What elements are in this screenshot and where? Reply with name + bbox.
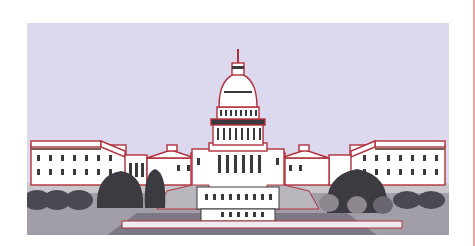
plaza (122, 221, 402, 228)
capitol-illustration (27, 23, 449, 235)
central-block (192, 143, 284, 189)
